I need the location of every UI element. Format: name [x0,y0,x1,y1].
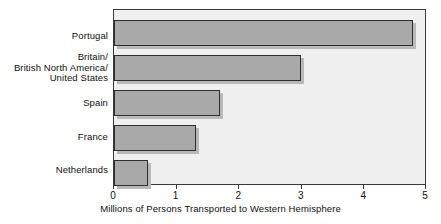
category-label-line: Netherlands [56,164,108,175]
bar-france [114,125,196,151]
tick-label-0: 0 [103,190,123,201]
tick-label-1: 1 [166,190,186,201]
category-axis: Portugal Britain/ British North America/… [0,9,108,185]
category-label-britain-bna-us: Britain/ British North America/ United S… [0,52,108,84]
x-axis-title: Millions of Persons Transported to Weste… [0,203,441,214]
category-label-line: France [78,131,108,142]
tick-mark-1 [176,185,177,189]
tick-mark-2 [238,185,239,189]
category-label-netherlands: Netherlands [0,165,108,176]
category-label-line: United States [0,73,108,84]
tick-label-5: 5 [415,190,435,201]
bar-chart-figure: Portugal Britain/ British North America/… [0,0,441,224]
bar-portugal [114,20,413,46]
bar-spain [114,90,220,116]
tick-label-2: 2 [228,190,248,201]
category-label-line: Spain [83,97,108,108]
category-label-line: Britain/ [0,52,108,63]
tick-mark-4 [363,185,364,189]
tick-mark-0 [113,185,114,189]
tick-label-3: 3 [291,190,311,201]
category-label-france: France [0,132,108,143]
bar-britain-bna-us [114,55,301,81]
category-label-portugal: Portugal [0,31,108,42]
tick-label-4: 4 [353,190,373,201]
plot-area [113,9,426,185]
bar-netherlands [114,160,148,186]
tick-mark-5 [425,185,426,189]
category-label-line: Portugal [72,30,108,41]
tick-mark-3 [301,185,302,189]
category-label-spain: Spain [0,98,108,109]
